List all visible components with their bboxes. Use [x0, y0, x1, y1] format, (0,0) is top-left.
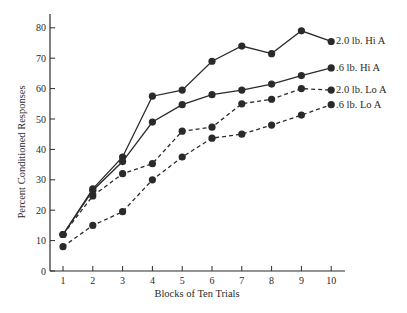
series-6-lb-lo-a: .6 lb. Lo A — [59, 99, 381, 250]
data-point — [149, 118, 156, 125]
y-tick-label: 80 — [36, 22, 46, 33]
series-2-0-lb-hi-a: 2.0 lb. Hi A — [59, 27, 385, 238]
series-line — [63, 89, 331, 235]
data-point — [298, 111, 305, 118]
y-ticks: 01020304050607080 — [36, 22, 55, 276]
x-tick-label: 6 — [210, 275, 215, 286]
y-tick-label: 50 — [36, 114, 46, 125]
y-tick-label: 40 — [36, 144, 46, 155]
data-point — [208, 91, 215, 98]
axes — [50, 14, 345, 271]
series-lines: 2.0 lb. Hi A.6 lb. Hi A2.0 lb. Lo A.6 lb… — [59, 27, 386, 250]
series-label: .6 lb. Hi A — [336, 62, 380, 73]
data-point — [179, 153, 186, 160]
data-point — [208, 135, 215, 142]
y-tick-label: 70 — [36, 53, 46, 64]
data-point — [59, 243, 66, 250]
data-point — [268, 121, 275, 128]
data-point — [119, 158, 126, 165]
data-point — [238, 42, 245, 49]
x-tick-label: 10 — [326, 275, 336, 286]
x-tick-label: 4 — [150, 275, 155, 286]
data-point — [328, 101, 335, 108]
x-tick-label: 2 — [90, 275, 95, 286]
data-point — [89, 192, 96, 199]
y-tick-label: 0 — [41, 266, 46, 277]
data-point — [179, 101, 186, 108]
y-tick-label: 10 — [36, 235, 46, 246]
data-point — [149, 160, 156, 167]
series-line — [63, 31, 331, 235]
data-point — [119, 208, 126, 215]
series-line — [63, 68, 331, 235]
x-tick-label: 8 — [269, 275, 274, 286]
data-point — [238, 100, 245, 107]
line-chart: 01020304050607080 12345678910 2.0 lb. Hi… — [0, 0, 407, 313]
series-label: .6 lb. Lo A — [336, 99, 382, 110]
data-point — [298, 85, 305, 92]
data-point — [268, 80, 275, 87]
data-point — [208, 58, 215, 65]
data-point — [238, 87, 245, 94]
x-tick-label: 1 — [61, 275, 66, 286]
data-point — [238, 131, 245, 138]
x-ticks: 12345678910 — [61, 266, 337, 286]
series-label: 2.0 lb. Hi A — [336, 35, 386, 46]
x-tick-label: 5 — [180, 275, 185, 286]
data-point — [298, 27, 305, 34]
x-tick-label: 7 — [239, 275, 244, 286]
series-line — [63, 105, 331, 247]
series-label: 2.0 lb. Lo A — [336, 84, 387, 95]
data-point — [328, 64, 335, 71]
data-point — [328, 87, 335, 94]
x-tick-label: 3 — [120, 275, 125, 286]
data-point — [89, 222, 96, 229]
data-point — [208, 124, 215, 131]
data-point — [268, 50, 275, 57]
x-axis-title: Blocks of Ten Trials — [154, 288, 239, 299]
data-point — [328, 38, 335, 45]
data-point — [149, 93, 156, 100]
data-point — [298, 72, 305, 79]
y-tick-label: 60 — [36, 83, 46, 94]
data-point — [59, 231, 66, 238]
data-point — [179, 128, 186, 135]
data-point — [268, 96, 275, 103]
data-point — [119, 170, 126, 177]
data-point — [179, 87, 186, 94]
y-tick-label: 30 — [36, 174, 46, 185]
y-axis-title: Percent Conditioned Responses — [16, 86, 27, 219]
data-point — [149, 176, 156, 183]
x-tick-label: 9 — [299, 275, 304, 286]
y-tick-label: 20 — [36, 205, 46, 216]
